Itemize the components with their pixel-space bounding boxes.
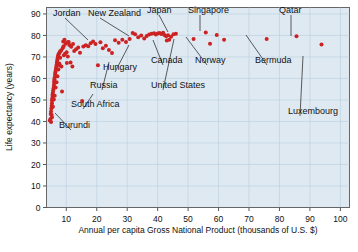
annotation-label: Jordan bbox=[53, 8, 81, 18]
data-point bbox=[204, 30, 208, 34]
x-tick-label: 80 bbox=[275, 214, 285, 224]
data-point bbox=[67, 40, 71, 44]
data-point bbox=[117, 41, 121, 45]
annotation-label: South Africa bbox=[71, 99, 120, 109]
data-point bbox=[53, 94, 57, 98]
y-tick-label: 70 bbox=[31, 52, 41, 62]
annotation-label: Russia bbox=[90, 80, 118, 90]
data-point bbox=[139, 33, 143, 37]
annotation-label: Qatar bbox=[279, 5, 302, 15]
y-axis-title: Life expectancy (years) bbox=[4, 63, 14, 151]
data-point bbox=[49, 120, 53, 124]
data-point bbox=[165, 39, 169, 43]
data-point bbox=[78, 51, 82, 55]
y-tick-label: 80 bbox=[31, 31, 41, 41]
annotation-label: Luxembourg bbox=[288, 106, 338, 116]
y-tick-label: 60 bbox=[31, 74, 41, 84]
scatter-plot-figure: 102030405060708090100 010203040506070809… bbox=[0, 0, 358, 252]
chart-canvas: 102030405060708090100 010203040506070809… bbox=[0, 0, 358, 252]
data-point bbox=[70, 64, 74, 68]
data-point bbox=[319, 42, 323, 46]
data-point bbox=[215, 33, 219, 37]
x-tick-label: 70 bbox=[244, 214, 254, 224]
y-tick-label: 90 bbox=[31, 9, 41, 19]
data-point bbox=[94, 42, 98, 46]
annotation-label: Norway bbox=[195, 55, 226, 65]
x-axis-tick-labels: 102030405060708090100 bbox=[62, 214, 348, 224]
data-point bbox=[222, 38, 226, 42]
x-tick-label: 60 bbox=[214, 214, 224, 224]
data-point bbox=[98, 40, 102, 44]
data-point bbox=[265, 37, 269, 41]
data-point bbox=[69, 61, 73, 65]
annotation-label: Singapore bbox=[188, 5, 229, 15]
data-point bbox=[110, 51, 114, 55]
data-point bbox=[55, 80, 59, 84]
annotation-label: Burundi bbox=[59, 120, 90, 130]
data-point bbox=[192, 37, 196, 41]
y-axis-tick-labels: 0102030405060708090 bbox=[31, 9, 41, 213]
data-point bbox=[96, 63, 100, 67]
data-point bbox=[58, 56, 62, 60]
data-point bbox=[71, 42, 75, 46]
annotation-label: New Zealand bbox=[88, 8, 141, 18]
data-point bbox=[56, 67, 60, 71]
data-point bbox=[54, 86, 58, 90]
annotation-label: Canada bbox=[151, 55, 183, 65]
x-tick-label: 20 bbox=[92, 214, 102, 224]
data-point bbox=[120, 38, 124, 42]
x-tick-label: 10 bbox=[62, 214, 72, 224]
data-point bbox=[174, 32, 178, 36]
data-point bbox=[107, 48, 111, 52]
data-point bbox=[52, 98, 56, 102]
data-point bbox=[62, 44, 66, 48]
annotation-label: Japan bbox=[147, 5, 172, 15]
x-tick-label: 30 bbox=[122, 214, 132, 224]
data-point bbox=[62, 38, 66, 42]
data-point bbox=[124, 40, 128, 44]
y-tick-label: 0 bbox=[36, 203, 41, 213]
annotation-label: United States bbox=[151, 80, 206, 90]
data-point bbox=[101, 46, 105, 50]
x-tick-label: 40 bbox=[153, 214, 163, 224]
annotation-label: Hungary bbox=[103, 62, 138, 72]
data-point bbox=[133, 32, 137, 36]
x-axis-title: Annual per capita Gross National Product… bbox=[78, 225, 317, 235]
data-point bbox=[295, 34, 299, 38]
data-point bbox=[113, 38, 117, 42]
x-tick-label: 90 bbox=[305, 214, 315, 224]
x-tick-label: 50 bbox=[183, 214, 193, 224]
data-point bbox=[59, 64, 63, 68]
data-point bbox=[76, 46, 80, 50]
y-tick-label: 40 bbox=[31, 117, 41, 127]
annotation-label: Bermuda bbox=[255, 55, 292, 65]
data-point bbox=[50, 115, 54, 119]
data-point bbox=[208, 42, 212, 46]
data-point bbox=[65, 50, 69, 54]
data-point bbox=[104, 44, 108, 48]
y-tick-label: 50 bbox=[31, 95, 41, 105]
data-point bbox=[128, 37, 132, 41]
x-tick-label: 100 bbox=[333, 214, 347, 224]
data-point bbox=[66, 55, 70, 59]
y-tick-label: 10 bbox=[31, 181, 41, 191]
data-point bbox=[65, 61, 69, 65]
y-tick-label: 20 bbox=[31, 160, 41, 170]
data-point bbox=[55, 74, 59, 78]
data-point bbox=[51, 105, 55, 109]
data-point bbox=[60, 90, 64, 94]
y-tick-label: 30 bbox=[31, 138, 41, 148]
